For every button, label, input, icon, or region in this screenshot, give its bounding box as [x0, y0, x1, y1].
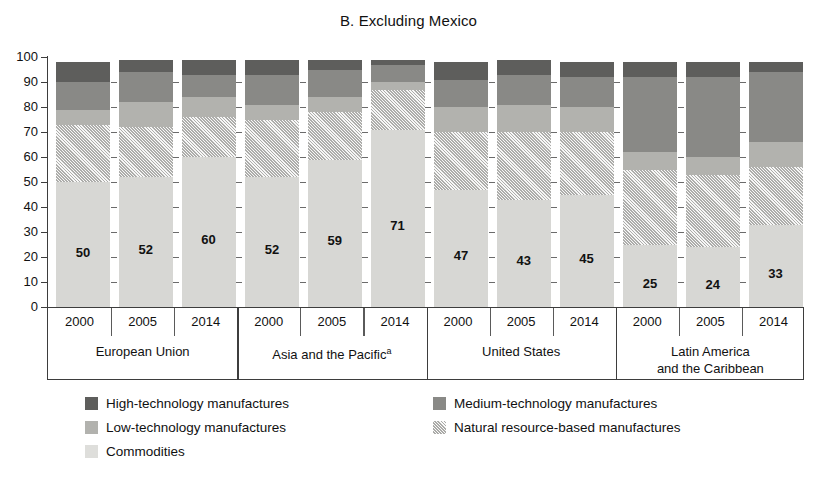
bar-segment-low-technology: [434, 107, 488, 132]
bar-segment-medium-technology: [497, 75, 551, 105]
minor-tick: [111, 182, 117, 183]
minor-tick: [425, 82, 431, 83]
year-label-2005-0: 2005: [111, 310, 174, 334]
bar-segment-low-technology: [119, 102, 173, 127]
minor-tick: [425, 157, 431, 158]
minor-tick: [362, 107, 368, 108]
y-axis-tick: [41, 57, 48, 58]
bar-segment-natural-resource-based: [119, 127, 173, 177]
minor-tick: [173, 82, 179, 83]
minor-tick: [300, 232, 306, 233]
minor-tick: [425, 207, 431, 208]
bar-segment-medium-technology: [623, 77, 677, 152]
minor-tick: [614, 182, 620, 183]
y-axis-label-100: 100: [4, 49, 38, 64]
minor-tick: [173, 182, 179, 183]
bar-segment-natural-resource-based: [749, 167, 803, 225]
y-axis-tick: [41, 82, 48, 83]
minor-tick: [614, 107, 620, 108]
minor-tick: [489, 82, 495, 83]
bar-value-label: 52: [119, 242, 173, 257]
year-label-2000-3: 2000: [616, 310, 679, 334]
bar-segment-high-technology: [749, 62, 803, 72]
minor-tick: [551, 282, 557, 283]
minor-tick: [551, 107, 557, 108]
y-axis-tick: [41, 207, 48, 208]
y-axis-tick: [41, 132, 48, 133]
legend-item-2[interactable]: Low-technology manufactures: [85, 420, 286, 435]
minor-tick: [551, 157, 557, 158]
minor-tick: [740, 182, 746, 183]
minor-tick: [678, 132, 684, 133]
minor-tick: [111, 132, 117, 133]
legend-label: Commodities: [106, 444, 185, 459]
bar-segment-low-technology: [308, 97, 362, 112]
y-axis-label-0: 0: [4, 299, 38, 314]
y-axis-label-90: 90: [4, 74, 38, 89]
year-separator: [679, 308, 680, 336]
group-label-3: Latin Americaand the Caribbean: [616, 339, 805, 379]
y-axis-label-30: 30: [4, 224, 38, 239]
bar-segment-medium-technology: [371, 65, 425, 83]
minor-tick: [300, 107, 306, 108]
minor-tick: [300, 257, 306, 258]
legend-item-3[interactable]: Natural resource-based manufactures: [433, 420, 681, 435]
minor-tick: [362, 82, 368, 83]
bar-value-label: 52: [245, 242, 299, 257]
bar-value-label: 50: [56, 245, 110, 260]
minor-tick: [300, 82, 306, 83]
group-label-1: Asia and the Pacifica: [237, 339, 426, 379]
year-label-2014-2: 2014: [553, 310, 616, 334]
bar-segment-high-technology: [56, 62, 110, 82]
minor-tick: [173, 207, 179, 208]
legend-item-0[interactable]: High-technology manufactures: [85, 396, 289, 411]
legend-item-1[interactable]: Medium-technology manufactures: [433, 396, 657, 411]
bar-segment-natural-resource-based: [434, 132, 488, 190]
bar-segment-low-technology: [497, 105, 551, 133]
legend-label: Low-technology manufactures: [106, 420, 286, 435]
bar-segment-low-technology: [245, 105, 299, 120]
bar-value-label: 24: [686, 277, 740, 292]
year-label-2014-3: 2014: [742, 310, 805, 334]
year-separator: [174, 308, 175, 336]
year-label-2005-1: 2005: [300, 310, 363, 334]
year-separator: [490, 308, 491, 336]
group-label-text: Asia and the Pacific: [272, 347, 386, 362]
minor-tick: [489, 132, 495, 133]
bar-value-label: 25: [623, 276, 677, 291]
bar-segment-low-technology: [182, 97, 236, 117]
bar-value-label: 60: [182, 232, 236, 247]
bar-value-label: 47: [434, 248, 488, 263]
legend-item-4[interactable]: Commodities: [85, 444, 185, 459]
year-separator: [363, 308, 364, 336]
group-label-text: European Union: [96, 344, 190, 359]
legend-label: Natural resource-based manufactures: [454, 420, 681, 435]
minor-tick: [111, 232, 117, 233]
minor-tick: [425, 232, 431, 233]
minor-tick: [740, 132, 746, 133]
minor-tick: [678, 157, 684, 158]
year-label-2014-1: 2014: [363, 310, 426, 334]
minor-tick: [489, 182, 495, 183]
minor-tick: [614, 132, 620, 133]
minor-tick: [362, 182, 368, 183]
minor-tick: [614, 207, 620, 208]
minor-tick: [614, 82, 620, 83]
year-label-2000-0: 2000: [48, 310, 111, 334]
minor-tick: [300, 157, 306, 158]
minor-tick: [678, 232, 684, 233]
bar-segment-high-technology: [182, 60, 236, 75]
minor-tick: [236, 257, 242, 258]
minor-tick: [111, 157, 117, 158]
chart-title: B. Excluding Mexico: [0, 12, 817, 29]
minor-tick: [236, 282, 242, 283]
bar-segment-low-technology: [56, 110, 110, 125]
low-technology-swatch-icon: [85, 421, 98, 434]
minor-tick: [300, 132, 306, 133]
bar-segment-natural-resource-based: [686, 175, 740, 248]
year-separator: [742, 308, 743, 336]
bar-segment-low-technology: [749, 142, 803, 167]
minor-tick: [489, 107, 495, 108]
chart-root: B. Excluding Mexico 100 90 80 70 60 50 4…: [0, 0, 817, 482]
year-separator: [300, 308, 301, 336]
